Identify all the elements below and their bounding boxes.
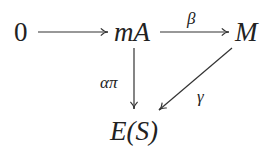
node-zero: 0 <box>14 19 28 46</box>
arrow-M-to-ES <box>159 48 232 110</box>
node-M: M <box>235 19 258 46</box>
node-E-of-S: E(S) <box>110 118 158 145</box>
label-beta: β <box>187 10 195 27</box>
label-gamma: γ <box>197 88 204 105</box>
label-alpha-pi: απ <box>100 74 117 91</box>
node-mA: mA <box>114 19 150 46</box>
